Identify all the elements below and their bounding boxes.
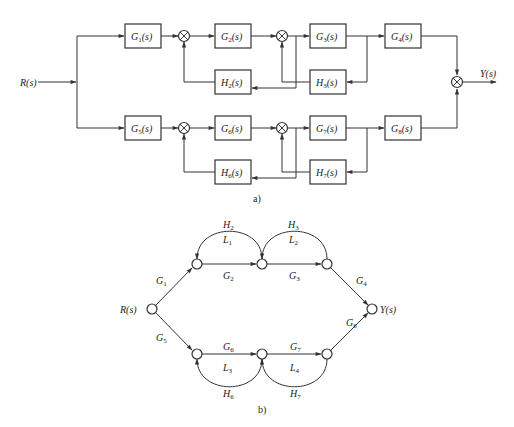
- gain-label-g6: G6: [223, 341, 234, 354]
- caption-a: a): [253, 193, 261, 205]
- gain-label-g1: G1: [156, 275, 167, 288]
- gain-label-g8: G8: [346, 317, 357, 330]
- gain-label-h2: H2: [222, 219, 234, 232]
- block-g6: G6(s): [215, 116, 251, 140]
- summing-junction-3: [179, 123, 190, 134]
- loop-label-l2: L2: [288, 234, 299, 247]
- node-input: [147, 304, 157, 314]
- output-summing-junction: [452, 77, 463, 88]
- node-lower-1: [192, 349, 202, 359]
- block-g7: G7(s): [310, 116, 346, 140]
- gain-label-h6: H6: [222, 388, 234, 401]
- gain-label-h7: H7: [289, 388, 301, 401]
- summing-junction-4: [277, 123, 288, 134]
- gain-label-g7: G7: [290, 341, 301, 354]
- block-g1: G1(s): [125, 24, 161, 48]
- block-g3: G3(s): [310, 24, 346, 48]
- output-label-y: Y(s): [480, 68, 497, 80]
- signal-flow-graph-b: R(s) Y(s) G1 G2 G3 G4 G5 G6 G7 G8 H2 H3 …: [119, 219, 397, 416]
- gain-label-g3: G3: [289, 270, 300, 283]
- block-g4: G4(s): [385, 24, 421, 48]
- branch-g1: [156, 268, 192, 305]
- caption-b: b): [258, 404, 266, 416]
- node-output: [367, 304, 377, 314]
- loop-label-l4: L4: [289, 362, 300, 375]
- block-h2: H2(s): [215, 70, 251, 94]
- block-diagram-a: R(s) G1(s) G2(s): [19, 24, 497, 205]
- node-upper-1: [192, 259, 202, 269]
- gain-label-g4: G4: [356, 275, 367, 288]
- block-h7: H7(s): [310, 160, 346, 184]
- block-g5: G5(s): [125, 116, 161, 140]
- control-system-diagram: R(s) G1(s) G2(s): [0, 0, 514, 427]
- summing-junction-2: [277, 31, 288, 42]
- block-g8: G8(s): [385, 116, 421, 140]
- node-label-r: R(s): [119, 304, 137, 316]
- block-h3: H3(s): [310, 70, 346, 94]
- loop-label-l3: L3: [222, 362, 233, 375]
- gain-label-h3: H3: [287, 219, 299, 232]
- node-lower-3: [322, 349, 332, 359]
- node-lower-2: [257, 349, 267, 359]
- summing-junction-1: [179, 31, 190, 42]
- input-label-r: R(s): [19, 77, 37, 89]
- gain-label-g5: G5: [156, 332, 167, 345]
- block-g2: G2(s): [215, 24, 251, 48]
- node-upper-2: [257, 259, 267, 269]
- gain-label-g2: G2: [223, 270, 234, 283]
- node-upper-3: [322, 259, 332, 269]
- block-h6: H6(s): [215, 160, 251, 184]
- node-label-y: Y(s): [380, 304, 397, 316]
- loop-label-l1: L1: [222, 234, 233, 247]
